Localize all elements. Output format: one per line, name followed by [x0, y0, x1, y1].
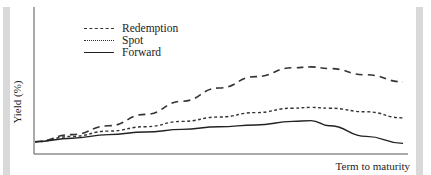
- legend-item-spot: Spot: [84, 34, 178, 46]
- y-axis-label: Yield (%): [11, 80, 23, 123]
- dotted-line-swatch-icon: [84, 40, 114, 41]
- legend-label: Forward: [122, 46, 161, 58]
- dashed-line-swatch-icon: [84, 28, 114, 29]
- legend-label: Spot: [122, 34, 143, 46]
- solid-line-swatch-icon: [84, 52, 114, 53]
- x-axis-label: Term to maturity: [336, 160, 410, 172]
- forward-line: [35, 121, 403, 144]
- legend-item-redemption: Redemption: [84, 22, 178, 34]
- chart-plot: [0, 0, 431, 175]
- chart-legend: Redemption Spot Forward: [84, 22, 178, 58]
- legend-label: Redemption: [122, 22, 178, 34]
- legend-item-forward: Forward: [84, 46, 178, 58]
